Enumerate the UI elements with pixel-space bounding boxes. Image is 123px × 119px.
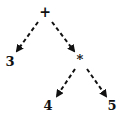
node-root: + [39, 4, 51, 20]
edge-arrow-mul-to-mul-right [87, 69, 106, 96]
node-mul-right: 5 [107, 98, 116, 113]
edges-group [17, 22, 106, 96]
edge-arrow-mul-to-mul-left [57, 69, 75, 96]
expression-tree-diagram: +3*45 [0, 0, 123, 119]
edge-arrow-root-to-left [17, 22, 38, 51]
node-mul-left: 4 [43, 98, 52, 113]
node-left: 3 [5, 54, 14, 69]
edge-arrow-root-to-mul [52, 22, 74, 51]
node-mul: * [77, 52, 84, 67]
nodes-group: +3*45 [5, 4, 116, 113]
